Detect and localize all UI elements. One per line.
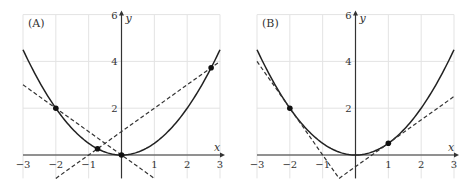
panel-title: (B) — [262, 17, 279, 30]
data-point — [119, 152, 125, 158]
y-axis-label: y — [125, 12, 133, 25]
chart-panel-a: −3−2−1123246xy(A) — [16, 10, 225, 179]
chart-panel-b: −3−2−1123246xy(B) — [250, 10, 459, 179]
x-axis-label: x — [448, 141, 455, 154]
data-point — [95, 146, 101, 152]
y-tick-label: 6 — [111, 10, 117, 21]
y-tick-label: 2 — [345, 103, 351, 114]
x-tick-label: 2 — [184, 159, 190, 170]
y-tick-label: 4 — [111, 56, 117, 67]
x-tick-label: 3 — [451, 159, 457, 170]
y-tick-label: 4 — [345, 56, 351, 67]
x-tick-label: 1 — [151, 159, 157, 170]
x-tick-label: 3 — [217, 159, 223, 170]
data-point — [208, 65, 214, 71]
figure: −3−2−1123246xy(A)−3−2−1123246xy(B) — [0, 0, 469, 186]
y-axis-arrow-icon — [353, 11, 358, 16]
data-point — [287, 105, 293, 111]
panel-title: (A) — [28, 17, 45, 30]
y-tick-label: 2 — [111, 103, 117, 114]
x-tick-label: −3 — [250, 159, 265, 170]
data-point — [386, 141, 392, 147]
x-tick-label: −2 — [282, 159, 297, 170]
y-axis-label: y — [359, 12, 367, 25]
y-tick-label: 6 — [345, 10, 351, 21]
x-tick-label: −2 — [48, 159, 63, 170]
x-axis-arrow-icon — [220, 153, 225, 158]
x-tick-label: 2 — [418, 159, 424, 170]
y-axis-arrow-icon — [119, 11, 124, 16]
x-tick-label: −3 — [16, 159, 31, 170]
x-axis-arrow-icon — [454, 153, 459, 158]
x-tick-label: −1 — [315, 159, 330, 170]
data-point — [53, 105, 59, 111]
x-tick-label: −1 — [81, 159, 96, 170]
x-axis-label: x — [214, 141, 221, 154]
x-tick-label: 1 — [385, 159, 391, 170]
